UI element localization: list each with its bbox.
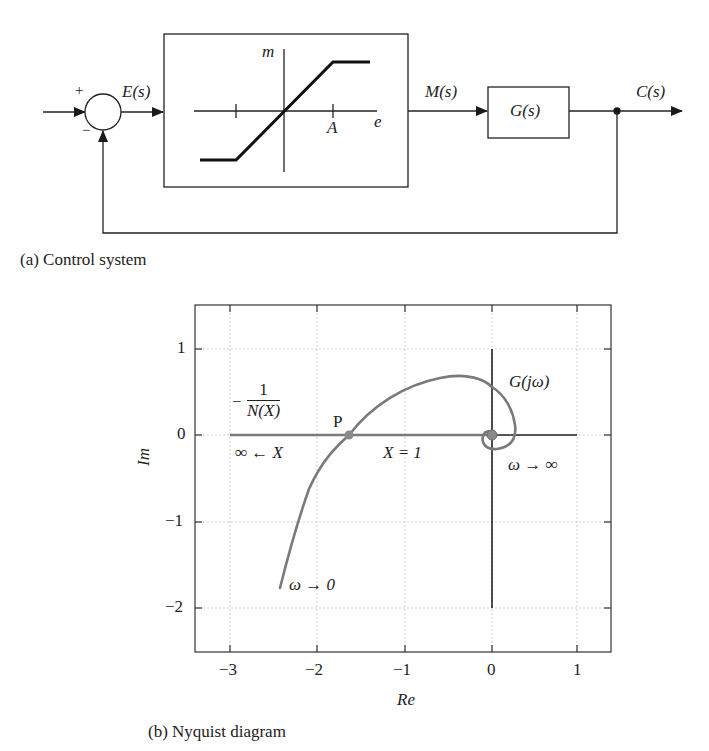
feedback-path [103, 111, 617, 233]
figure-canvas [0, 0, 709, 751]
point-p-label: P [333, 412, 342, 432]
origin-marker [487, 430, 497, 440]
point-p-marker [345, 431, 354, 440]
describing-function-num: 1 [247, 380, 280, 401]
omega-low-label: ω → 0 [289, 575, 335, 595]
y-tick-neg1: −1 [165, 511, 183, 531]
x-tick-0: 0 [487, 660, 496, 680]
caption-b: (b) Nyquist diagram [148, 722, 286, 742]
nyquist-plot [195, 305, 611, 652]
y-tick-0: 0 [177, 424, 186, 444]
minus-sign: − [82, 122, 90, 139]
curve-label: G(jω) [509, 372, 549, 392]
nyquist-curve [280, 376, 515, 588]
plot-frame [195, 305, 611, 652]
y-axis-label: Im [134, 448, 154, 466]
m-axis-label: m [262, 42, 274, 62]
omega-high-label: ω → ∞ [508, 455, 558, 475]
x-tick-1: 1 [573, 660, 582, 680]
plus-sign: + [75, 82, 83, 99]
caption-a: (a) Control system [20, 250, 147, 270]
x-tick-neg1: −1 [393, 660, 411, 680]
output-signal-label: C(s) [636, 82, 665, 102]
describing-function-minus: − [232, 392, 242, 412]
error-signal-label: E(s) [122, 82, 150, 102]
y-tick-neg2: −2 [165, 597, 183, 617]
x-tick-neg2: −2 [305, 660, 323, 680]
saturation-a-label: A [327, 118, 337, 138]
x-tick-neg3: −3 [219, 660, 237, 680]
grid [195, 305, 611, 652]
e-axis-label: e [374, 112, 382, 132]
y-tick-1: 1 [177, 338, 186, 358]
describing-function-fraction: 1 N(X) [247, 380, 280, 421]
describing-function-den: N(X) [247, 401, 280, 421]
manipulated-signal-label: M(s) [425, 82, 457, 102]
plant-label: G(s) [510, 101, 540, 121]
x-axis-label: Re [397, 690, 415, 710]
block-diagram [43, 34, 682, 233]
axis-ticks [195, 305, 611, 652]
x-one-label: X = 1 [383, 443, 422, 463]
x-infinity-label: ∞ ← X [235, 443, 283, 463]
